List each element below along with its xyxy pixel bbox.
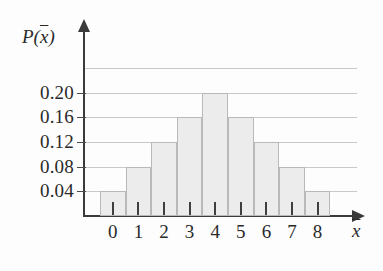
x-tick: [265, 202, 267, 215]
x-tick-label: 8: [303, 221, 333, 243]
x-tick: [189, 202, 191, 215]
bar: [202, 93, 228, 216]
x-axis-title: x: [352, 220, 360, 242]
x-tick: [291, 202, 293, 215]
x-tick: [214, 202, 216, 215]
y-tick-label: 0.04: [8, 181, 74, 200]
y-tick: [77, 142, 86, 143]
x-tick: [112, 202, 114, 215]
y-axis-arrow-icon: [78, 19, 90, 32]
y-axis-title-suffix: ): [48, 26, 54, 47]
bars-group: [100, 0, 330, 216]
y-axis-line: [83, 30, 85, 217]
y-tick: [77, 191, 86, 192]
chart-figure: P(x) 0.040.080.120.160.20 012345678 x: [0, 0, 383, 271]
y-tick-label: 0.20: [8, 83, 74, 102]
y-tick-label: 0.12: [8, 132, 74, 151]
x-tick: [317, 202, 319, 215]
y-tick-label: 0.08: [8, 157, 74, 176]
y-tick: [77, 117, 86, 118]
y-tick: [77, 167, 86, 168]
y-tick: [77, 93, 86, 94]
x-axis-title-var: x: [352, 220, 360, 241]
x-tick: [137, 202, 139, 215]
y-axis-title-prefix: P(: [22, 26, 40, 47]
y-tick-label: 0.16: [8, 107, 74, 126]
y-axis-title: P(x): [22, 26, 55, 48]
x-tick: [240, 202, 242, 215]
x-tick: [163, 202, 165, 215]
